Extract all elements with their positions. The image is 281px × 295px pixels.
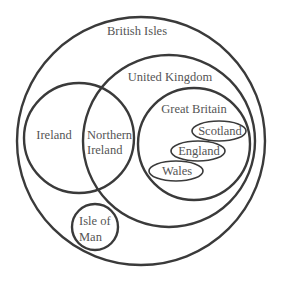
ireland-label: Ireland xyxy=(36,128,72,142)
british-isles-label: British Isles xyxy=(107,24,167,38)
united-kingdom-label: United Kingdom xyxy=(128,70,213,84)
isle-of-man-label-line1: Isle of xyxy=(79,214,111,228)
scotland-label: Scotland xyxy=(198,124,242,138)
diagram-canvas: British Isles United Kingdom Great Brita… xyxy=(0,0,281,295)
british-isles-euler-diagram: British Isles United Kingdom Great Brita… xyxy=(0,0,281,295)
isle-of-man-label-line2: Man xyxy=(79,230,103,244)
england-label: England xyxy=(178,144,220,158)
great-britain-label: Great Britain xyxy=(161,102,227,116)
wales-label: Wales xyxy=(162,164,192,178)
northern-ireland-label-line1: Northern xyxy=(87,128,133,142)
northern-ireland-label-line2: Ireland xyxy=(87,143,123,157)
